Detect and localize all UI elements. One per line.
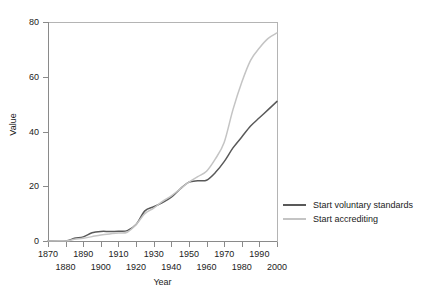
x-tick-label: 1880 bbox=[49, 263, 83, 272]
y-tick-label: 60 bbox=[0, 73, 39, 82]
y-tick-label: 0 bbox=[0, 237, 39, 246]
x-tick-mark bbox=[66, 242, 67, 247]
x-tick-mark bbox=[277, 242, 278, 247]
x-tick-mark bbox=[189, 242, 190, 247]
y-tick-mark bbox=[43, 186, 48, 187]
x-tick-label: 1910 bbox=[101, 250, 135, 259]
x-tick-label: 1940 bbox=[154, 263, 188, 272]
y-tick-label: 80 bbox=[0, 18, 39, 27]
legend-label: Start accrediting bbox=[313, 215, 378, 224]
x-tick-label: 1900 bbox=[84, 263, 118, 272]
x-tick-mark bbox=[118, 242, 119, 247]
x-tick-mark bbox=[259, 242, 260, 247]
y-tick-label: 20 bbox=[0, 182, 39, 191]
x-tick-mark bbox=[101, 242, 102, 247]
plot-frame-top bbox=[48, 22, 277, 23]
chart-figure: 020406080 187018801890190019101920193019… bbox=[0, 0, 434, 295]
x-tick-mark bbox=[83, 242, 84, 247]
x-tick-label: 1870 bbox=[31, 250, 65, 259]
legend-item[interactable]: Start voluntary standards bbox=[283, 198, 413, 212]
x-tick-label: 2000 bbox=[260, 263, 294, 272]
x-axis-title: Year bbox=[48, 278, 277, 287]
y-tick-mark bbox=[43, 77, 48, 78]
x-tick-label: 1990 bbox=[242, 250, 276, 259]
y-axis-title: Value bbox=[9, 95, 18, 155]
legend-item[interactable]: Start accrediting bbox=[283, 212, 413, 226]
legend-line-icon bbox=[283, 218, 306, 220]
y-tick-mark bbox=[43, 22, 48, 23]
y-tick-label: 40 bbox=[0, 128, 39, 137]
x-tick-mark bbox=[207, 242, 208, 247]
x-tick-mark bbox=[171, 242, 172, 247]
x-tick-label: 1890 bbox=[66, 250, 100, 259]
x-tick-mark bbox=[154, 242, 155, 247]
x-tick-label: 1920 bbox=[119, 263, 153, 272]
x-tick-label: 1980 bbox=[225, 263, 259, 272]
x-tick-label: 1970 bbox=[207, 250, 241, 259]
x-tick-mark bbox=[48, 242, 49, 247]
x-tick-label: 1960 bbox=[190, 263, 224, 272]
x-tick-mark bbox=[224, 242, 225, 247]
x-tick-mark bbox=[242, 242, 243, 247]
series-line-2 bbox=[48, 33, 277, 241]
legend-label: Start voluntary standards bbox=[313, 201, 413, 210]
y-axis-line bbox=[48, 22, 49, 241]
plot-frame-right bbox=[277, 22, 278, 242]
x-tick-label: 1930 bbox=[137, 250, 171, 259]
legend-line-icon bbox=[283, 204, 306, 206]
series-line-1 bbox=[48, 101, 277, 241]
x-tick-label: 1950 bbox=[172, 250, 206, 259]
chart-legend: Start voluntary standardsStart accrediti… bbox=[283, 198, 413, 226]
x-tick-mark bbox=[136, 242, 137, 247]
y-tick-mark bbox=[43, 132, 48, 133]
